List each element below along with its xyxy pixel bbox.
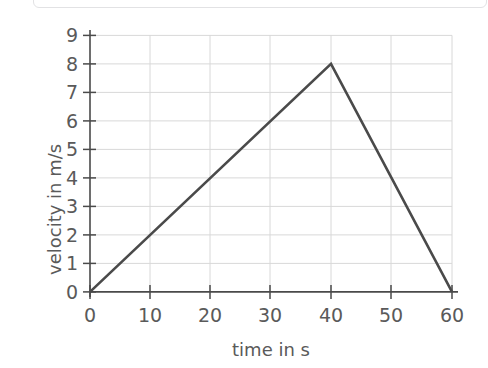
- y-axis-title: velocity in m/s: [44, 144, 65, 275]
- ytick-label-8: 8: [52, 55, 78, 74]
- x-axis-title: time in s: [90, 339, 452, 360]
- xtick-label-60: 60: [432, 306, 472, 325]
- xtick-label-20: 20: [190, 306, 230, 325]
- velocity-time-chart: 9 8 7 6 5 4 3 2 1 0 0 10 20 30 40 50 60 …: [0, 0, 488, 368]
- ytick-label-9: 9: [52, 26, 78, 45]
- xtick-label-30: 30: [250, 306, 290, 325]
- xtick-label-50: 50: [371, 306, 411, 325]
- ytick-label-0: 0: [52, 283, 78, 302]
- xtick-label-0: 0: [70, 306, 110, 325]
- ytick-label-7: 7: [52, 83, 78, 102]
- xtick-label-10: 10: [130, 306, 170, 325]
- horizontal-gridlines: [90, 35, 452, 263]
- xtick-label-40: 40: [311, 306, 351, 325]
- ytick-label-6: 6: [52, 112, 78, 131]
- vertical-gridlines: [150, 35, 452, 292]
